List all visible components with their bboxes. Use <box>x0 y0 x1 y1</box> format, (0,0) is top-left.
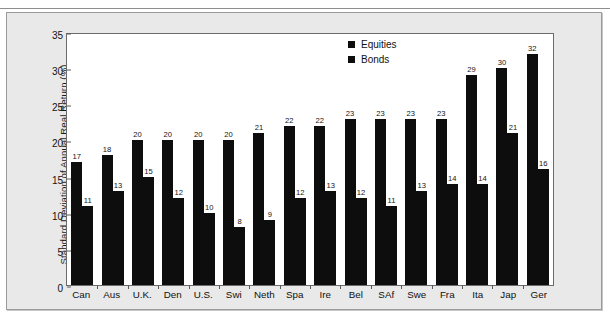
bar-rect[interactable] <box>507 133 518 285</box>
bar-rect[interactable] <box>193 140 204 285</box>
legend-swatch-equities-icon <box>348 41 355 48</box>
y-axis-tick: 35 <box>52 25 67 43</box>
bar-equities[interactable]: 22 <box>314 34 325 285</box>
bar-rect[interactable] <box>447 184 458 285</box>
bar-rect[interactable] <box>143 177 154 285</box>
bar-value-label: 12 <box>357 188 365 197</box>
bar-bonds[interactable]: 12 <box>356 34 367 285</box>
bar-rect[interactable] <box>527 54 538 285</box>
bar-bonds[interactable]: 13 <box>113 34 124 285</box>
bar-rect[interactable] <box>132 140 143 285</box>
y-axis-tick: 15 <box>52 170 67 188</box>
bar-bonds[interactable]: 10 <box>204 34 215 285</box>
bar-rect[interactable] <box>253 133 264 285</box>
bar-bonds[interactable]: 15 <box>143 34 154 285</box>
bar-rect[interactable] <box>325 191 336 285</box>
bar-bonds[interactable]: 16 <box>538 34 549 285</box>
bar-value-label: 20 <box>224 130 232 139</box>
bar-group: 208 <box>219 34 249 285</box>
y-axis-tick-mark <box>67 106 71 107</box>
bar-rect[interactable] <box>162 140 173 285</box>
bar-rect[interactable] <box>223 140 234 285</box>
bar-equities[interactable]: 20 <box>132 34 143 285</box>
chart-figure: Standard Deviation of Annual Real Return… <box>0 0 610 321</box>
bar-group: 2312 <box>340 34 370 285</box>
bar-rect[interactable] <box>375 119 386 285</box>
bar-equities[interactable]: 23 <box>375 34 386 285</box>
chart-legend: Equities Bonds <box>348 38 397 68</box>
bar-bonds[interactable]: 21 <box>507 34 518 285</box>
bar-value-label: 23 <box>407 109 415 118</box>
bar-rect[interactable] <box>113 191 124 285</box>
bar-group: 2914 <box>462 34 492 285</box>
bar-rect[interactable] <box>173 198 184 285</box>
bar-rect[interactable] <box>71 162 82 285</box>
bar-rect[interactable] <box>234 227 245 285</box>
bar-equities[interactable]: 30 <box>496 34 507 285</box>
bar-rect[interactable] <box>82 206 93 286</box>
bar-equities[interactable]: 20 <box>162 34 173 285</box>
bar-group: 1711 <box>67 34 97 285</box>
bar-equities[interactable]: 23 <box>405 34 416 285</box>
bar-rect[interactable] <box>466 75 477 285</box>
bar-bonds[interactable]: 13 <box>325 34 336 285</box>
bar-group: 2314 <box>432 34 462 285</box>
bar-rect[interactable] <box>436 119 447 285</box>
bar-rect[interactable] <box>264 220 275 285</box>
x-axis-tick-label: U.K. <box>127 289 158 300</box>
y-axis-tick: 25 <box>52 97 67 115</box>
bar-value-label: 18 <box>103 145 111 154</box>
bar-rect[interactable] <box>405 119 416 285</box>
bar-rect[interactable] <box>345 119 356 285</box>
bar-rect[interactable] <box>204 213 215 285</box>
bar-equities[interactable]: 29 <box>466 34 477 285</box>
bar-rect[interactable] <box>102 155 113 285</box>
legend-swatch-bonds-icon <box>348 56 355 63</box>
bar-equities[interactable]: 18 <box>102 34 113 285</box>
bar-equities[interactable]: 20 <box>223 34 234 285</box>
x-axis-tick-label: Swi <box>219 289 250 300</box>
bar-rect[interactable] <box>416 191 427 285</box>
bar-rect[interactable] <box>295 198 306 285</box>
bar-bonds[interactable]: 14 <box>477 34 488 285</box>
bar-group: 2015 <box>128 34 158 285</box>
bar-equities[interactable]: 17 <box>71 34 82 285</box>
bar-group: 2213 <box>310 34 340 285</box>
y-axis-tick: 10 <box>52 206 67 224</box>
bar-bonds[interactable]: 12 <box>173 34 184 285</box>
bar-bonds[interactable]: 11 <box>82 34 93 285</box>
bar-bonds[interactable]: 9 <box>264 34 275 285</box>
y-axis-tick-mark <box>67 214 71 215</box>
bar-group: 2212 <box>280 34 310 285</box>
bar-rect[interactable] <box>314 126 325 285</box>
bar-bonds[interactable]: 13 <box>416 34 427 285</box>
bar-equities[interactable]: 23 <box>345 34 356 285</box>
bar-value-label: 12 <box>296 188 304 197</box>
bar-bonds[interactable]: 8 <box>234 34 245 285</box>
legend-label-equities: Equities <box>361 40 397 50</box>
y-axis-tick-label: 30 <box>52 66 63 77</box>
y-axis-tick-label: 25 <box>52 102 63 113</box>
bar-rect[interactable] <box>538 169 549 285</box>
y-axis-tick: 5 <box>57 242 67 260</box>
x-axis-labels: CanAusU.K.DenU.S.SwiNethSpaIreBelSAfSweF… <box>66 289 554 300</box>
chart-page-panel: Standard Deviation of Annual Real Return… <box>6 12 602 310</box>
bar-bonds[interactable]: 12 <box>295 34 306 285</box>
bar-rect[interactable] <box>386 206 397 286</box>
x-axis-tick-label: Spa <box>280 289 311 300</box>
bar-bonds[interactable]: 14 <box>447 34 458 285</box>
x-axis-tick-label: Can <box>66 289 97 300</box>
bar-equities[interactable]: 32 <box>527 34 538 285</box>
legend-label-bonds: Bonds <box>361 55 389 65</box>
bar-value-label: 14 <box>448 174 456 183</box>
bar-rect[interactable] <box>477 184 488 285</box>
bar-group: 219 <box>249 34 279 285</box>
bar-bonds[interactable]: 11 <box>386 34 397 285</box>
bar-rect[interactable] <box>496 68 507 285</box>
bar-equities[interactable]: 21 <box>253 34 264 285</box>
bar-equities[interactable]: 20 <box>193 34 204 285</box>
bar-rect[interactable] <box>284 126 295 285</box>
bar-equities[interactable]: 22 <box>284 34 295 285</box>
bar-rect[interactable] <box>356 198 367 285</box>
bar-equities[interactable]: 23 <box>436 34 447 285</box>
